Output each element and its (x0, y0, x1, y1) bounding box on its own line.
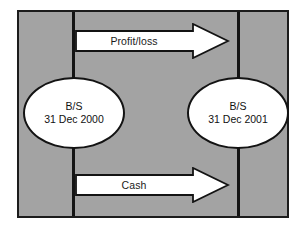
balance-sheet-opening-node: B/S 31 Dec 2000 (23, 77, 125, 149)
cash-arrow-shape (75, 167, 230, 203)
profit-loss-arrow: Profit/loss (75, 23, 230, 59)
cash-arrow: Cash (75, 167, 230, 203)
balance-sheet-opening-date: 31 Dec 2000 (44, 113, 104, 126)
profit-loss-arrow-shape (75, 23, 230, 59)
balance-sheet-opening-title: B/S (66, 100, 83, 113)
balance-sheet-closing-node: B/S 31 Dec 2001 (187, 77, 289, 149)
balance-sheet-closing-title: B/S (230, 100, 247, 113)
balance-sheet-closing-date: 31 Dec 2001 (208, 113, 268, 126)
diagram-frame: Profit/loss Cash B/S 31 Dec 2000 B/S 31 … (17, 10, 289, 218)
margin-text-fragments: t t (0, 60, 14, 110)
